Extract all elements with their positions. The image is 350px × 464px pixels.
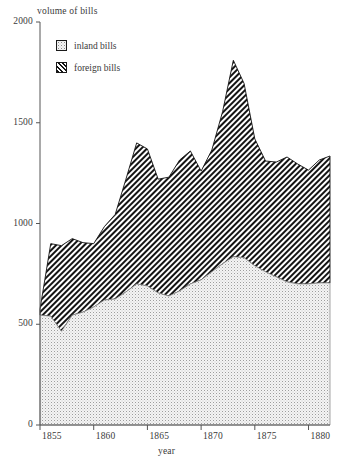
legend-label-foreign-bills: foreign bills xyxy=(74,63,120,73)
y-tick-label: 0 xyxy=(0,419,33,429)
area-chart-svg xyxy=(0,0,350,464)
legend-swatch-foreign-icon xyxy=(56,62,67,73)
legend-swatch-inland-icon xyxy=(56,40,67,51)
x-tick-label: 1880 xyxy=(311,431,331,441)
x-tick-label: 1875 xyxy=(257,431,277,441)
y-axis-ticks xyxy=(36,22,40,425)
y-tick-label: 2000 xyxy=(0,16,33,26)
y-axis-title: volume of bills xyxy=(37,6,98,16)
legend-label-inland-bills: inland bills xyxy=(74,41,117,51)
x-tick-label: 1855 xyxy=(42,431,62,441)
legend-item-inland-bills: inland bills xyxy=(56,40,117,51)
x-tick-label: 1860 xyxy=(96,431,116,441)
chart-root: 2000150010005000 18551860186518701875188… xyxy=(0,0,350,464)
y-tick-label: 500 xyxy=(0,318,33,328)
y-tick-label: 1000 xyxy=(0,218,33,228)
x-tick-label: 1870 xyxy=(203,431,223,441)
x-axis-title: year xyxy=(158,446,175,456)
y-tick-label: 1500 xyxy=(0,117,33,127)
legend-item-foreign-bills: foreign bills xyxy=(56,62,120,73)
x-axis-ticks xyxy=(40,425,309,430)
x-tick-label: 1865 xyxy=(149,431,169,441)
